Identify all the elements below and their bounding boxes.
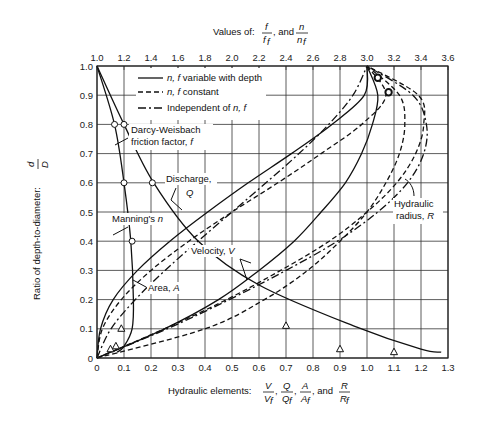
svg-text:0.5: 0.5 <box>225 362 238 373</box>
svg-text:0.7: 0.7 <box>80 148 93 159</box>
manning-arrow-icon <box>113 227 128 235</box>
triangle-marker-icon <box>337 345 344 352</box>
legend: n, f variable with depth n, f constant I… <box>136 68 266 120</box>
svg-text:f: f <box>265 21 269 32</box>
svg-text:f: f <box>267 36 271 47</box>
triangle-marker-icon <box>283 322 290 329</box>
svg-text:3.4: 3.4 <box>414 52 427 63</box>
svg-text:2.4: 2.4 <box>279 52 292 63</box>
svg-text:n: n <box>299 21 304 32</box>
svg-text:Values of:: Values of: <box>213 26 255 37</box>
svg-text:0.9: 0.9 <box>333 362 346 373</box>
svg-text:V: V <box>265 380 273 391</box>
svg-text:1.8: 1.8 <box>198 52 211 63</box>
svg-text:f: f <box>307 395 311 406</box>
darcy-label: Darcy-Weisbach <box>131 124 201 135</box>
y-tick-labels: 00.10.20.30.40.50.60.70.80.91.0 <box>80 61 93 364</box>
hydraulic-label: Hydraulic <box>394 198 434 209</box>
svg-text:0.7: 0.7 <box>279 362 292 373</box>
svg-text:d: d <box>25 161 36 167</box>
svg-text:, and: , and <box>312 385 333 396</box>
svg-text:0.6: 0.6 <box>252 362 265 373</box>
velocity-label: Velocity, V <box>191 245 236 256</box>
svg-text:2.8: 2.8 <box>333 52 346 63</box>
svg-text:1.0: 1.0 <box>360 362 373 373</box>
svg-text:0.3: 0.3 <box>80 265 93 276</box>
svg-text:0.8: 0.8 <box>306 362 319 373</box>
svg-text:2.2: 2.2 <box>252 52 265 63</box>
triangle-marker-icon <box>391 348 398 355</box>
discharge-arrow-icon <box>171 188 182 210</box>
svg-text:,: , <box>275 385 278 396</box>
radius-label: radius, R <box>396 210 434 221</box>
svg-text:D: D <box>39 161 50 168</box>
svg-text:f: f <box>289 395 293 406</box>
svg-text:1.6: 1.6 <box>171 52 184 63</box>
curve-manning-n-n-f <box>97 66 134 352</box>
hydraulic-elements-chart: 00.10.20.30.40.50.60.70.80.91.01.11.21.3… <box>0 0 480 429</box>
y-axis-title: Ratio of depth-to-diameter: d D <box>25 159 50 300</box>
legend-entry-variable: n, f variable with depth <box>167 72 262 83</box>
svg-text:3.6: 3.6 <box>441 52 454 63</box>
svg-text:f: f <box>346 395 350 406</box>
svg-text:0.3: 0.3 <box>171 362 184 373</box>
circle-marker-icon <box>112 121 118 127</box>
svg-text:0.4: 0.4 <box>198 362 211 373</box>
annotations: Darcy-Weisbach friction factor, f Mannin… <box>111 124 443 294</box>
triangle-marker-icon <box>112 342 119 349</box>
svg-text:1.4: 1.4 <box>144 52 157 63</box>
svg-text:0: 0 <box>94 362 99 373</box>
svg-text:3.0: 3.0 <box>360 52 373 63</box>
discharge-label: Discharge, <box>166 173 211 184</box>
svg-text:0.4: 0.4 <box>80 236 93 247</box>
svg-text:0.2: 0.2 <box>144 362 157 373</box>
top-axis-title: Values of: f f f , and n n f <box>213 21 308 47</box>
area-label: Area, A <box>148 282 180 293</box>
legend-entry-independent: Independent of n, f <box>167 102 248 113</box>
radius-arrow-icon <box>405 179 414 196</box>
svg-text:0.5: 0.5 <box>80 207 93 218</box>
top-tick-labels: 1.01.21.41.61.82.02.22.42.62.83.03.23.43… <box>90 52 454 63</box>
darcy-label-2: friction factor, f <box>131 136 194 147</box>
svg-text:1.0: 1.0 <box>90 52 103 63</box>
svg-text:2.0: 2.0 <box>225 52 238 63</box>
svg-text:1.2: 1.2 <box>117 52 130 63</box>
svg-text:0.1: 0.1 <box>117 362 130 373</box>
manning-label: Manning's n <box>112 213 163 224</box>
svg-text:1.1: 1.1 <box>387 362 400 373</box>
svg-text:Ratio of depth-to-diameter:: Ratio of depth-to-diameter: <box>31 187 42 300</box>
svg-text:Q: Q <box>283 380 291 391</box>
circle-marker-icon <box>149 180 155 186</box>
svg-text:0.6: 0.6 <box>80 177 93 188</box>
svg-text:, and: , and <box>273 26 294 37</box>
x-axis-title: Hydraulic elements: V V f , Q Q f , A A … <box>168 380 350 406</box>
circle-marker-icon <box>121 121 127 127</box>
bold-circle-marker-icon <box>375 74 381 80</box>
svg-text:R: R <box>341 380 348 391</box>
svg-text:0.9: 0.9 <box>80 90 93 101</box>
velocity-arrow-icon <box>240 259 251 280</box>
svg-text:,: , <box>294 385 297 396</box>
svg-text:0.2: 0.2 <box>80 294 93 305</box>
svg-text:0: 0 <box>88 353 93 364</box>
x-tick-labels: 00.10.20.30.40.50.60.70.80.91.01.11.21.3 <box>94 362 454 373</box>
svg-text:3.2: 3.2 <box>387 52 400 63</box>
svg-text:f: f <box>270 395 274 406</box>
svg-text:f: f <box>303 36 307 47</box>
circle-marker-icon <box>129 238 135 244</box>
legend-entry-constant: n, f constant <box>167 86 219 97</box>
svg-text:n: n <box>297 34 302 45</box>
svg-text:1.3: 1.3 <box>441 362 454 373</box>
discharge-q-label: Q <box>186 187 194 198</box>
svg-text:Hydraulic elements:: Hydraulic elements: <box>168 385 251 396</box>
svg-text:1.2: 1.2 <box>414 362 427 373</box>
svg-text:A: A <box>301 380 308 391</box>
circle-marker-icon <box>121 180 127 186</box>
bold-circle-marker-icon <box>385 89 391 95</box>
svg-text:0.8: 0.8 <box>80 119 93 130</box>
svg-text:2.6: 2.6 <box>306 52 319 63</box>
svg-text:0.1: 0.1 <box>80 323 93 334</box>
